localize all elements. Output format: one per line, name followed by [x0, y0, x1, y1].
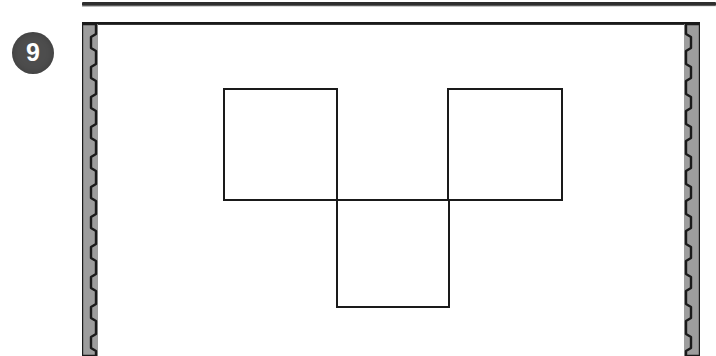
- top-left-square: [224, 89, 337, 200]
- exercise-panel: [82, 22, 700, 356]
- bottom-middle-square: [337, 200, 449, 307]
- right-scallop-band: [684, 24, 700, 356]
- worksheet-page: 9: [0, 0, 716, 356]
- panel-top-border: [82, 22, 700, 25]
- figure-area: [82, 22, 700, 356]
- left-scallop-band: [82, 24, 98, 356]
- question-number-label: 9: [26, 40, 40, 65]
- right-scallop-shape: [684, 24, 700, 356]
- question-number-badge: 9: [12, 32, 54, 74]
- top-right-square: [448, 89, 562, 200]
- previous-panel-rule: [82, 2, 716, 6]
- three-square-net-diagram: [82, 22, 700, 356]
- left-scallop-shape: [82, 24, 98, 356]
